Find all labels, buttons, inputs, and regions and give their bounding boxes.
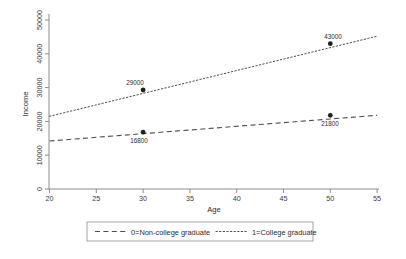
chart-screenshot: 0 10000 20000 30000 40000 50000 Income [0, 0, 406, 259]
x-axis-title: Age [207, 205, 221, 214]
y-axis-title: Income [21, 92, 30, 117]
x-tick-label-55: 55 [373, 194, 381, 203]
x-tick-label-50: 50 [326, 194, 334, 203]
income-by-age-chart: 0 10000 20000 30000 40000 50000 Income [0, 0, 406, 259]
y-axis-tick-labels: 0 10000 20000 30000 40000 50000 [35, 10, 44, 191]
point-label-college-age-50: 43000 [324, 33, 342, 40]
x-tick-label-20: 20 [46, 194, 54, 203]
y-tick-label-30000: 30000 [35, 78, 44, 98]
x-axis-tick-labels: 20 25 30 35 40 45 50 55 [46, 194, 382, 203]
chart-canvas: 0 10000 20000 30000 40000 50000 Income [0, 0, 406, 259]
x-tick-label-35: 35 [186, 194, 194, 203]
marker-non-college-age-30[interactable] [141, 130, 146, 135]
point-label-college-age-30: 29000 [126, 79, 144, 86]
plot-area-background [49, 14, 379, 189]
legend-label-non-college[interactable]: 0=Non-college graduate [131, 228, 210, 237]
marker-college-age-30[interactable] [141, 88, 146, 93]
y-tick-label-50000: 50000 [35, 10, 44, 30]
legend-label-college[interactable]: 1=College graduate [252, 228, 317, 237]
y-tick-label-10000: 10000 [35, 145, 44, 165]
y-tick-label-0: 0 [35, 187, 44, 191]
point-label-non-college-age-30: 16800 [130, 137, 148, 144]
x-axis-ticks [50, 189, 378, 193]
x-tick-label-25: 25 [92, 194, 100, 203]
x-tick-label-45: 45 [280, 194, 288, 203]
marker-college-age-50[interactable] [328, 41, 333, 46]
y-axis-ticks [45, 20, 49, 189]
y-tick-label-20000: 20000 [35, 111, 44, 131]
chart-legend: 0=Non-college graduate 1=College graduat… [87, 222, 317, 241]
point-label-non-college-age-50: 21800 [321, 120, 339, 127]
x-tick-label-30: 30 [139, 194, 147, 203]
marker-non-college-age-50[interactable] [328, 113, 333, 118]
y-tick-label-40000: 40000 [35, 44, 44, 64]
x-tick-label-40: 40 [233, 194, 241, 203]
